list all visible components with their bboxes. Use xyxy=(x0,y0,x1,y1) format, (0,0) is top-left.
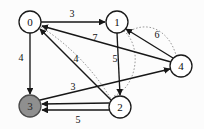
node-0-label: 0 xyxy=(27,16,33,28)
edge-weight-2-3-lower: 5 xyxy=(76,114,81,125)
node-3[interactable]: 3 xyxy=(19,95,41,117)
node-3-label: 3 xyxy=(27,100,33,112)
edge-4-to-0 xyxy=(42,26,171,62)
edge-weight-4-0: 7 xyxy=(93,32,98,43)
edge-1-to-2 xyxy=(117,33,120,95)
edge-2-to-3-upper xyxy=(42,103,109,104)
edge-weight-4-1: 6 xyxy=(155,29,160,40)
edge-weight-0-1: 3 xyxy=(70,8,75,19)
node-1[interactable]: 1 xyxy=(106,11,128,33)
edge-weight-2-0: 4 xyxy=(74,53,79,64)
edge-2-to-0 xyxy=(40,29,111,100)
node-0[interactable]: 0 xyxy=(19,11,41,33)
graph-svg: 3 7 6 5 4 4 3 5 0 1 4 2 3 xyxy=(0,0,204,129)
edge-weight-1-2: 5 xyxy=(113,53,118,64)
node-2[interactable]: 2 xyxy=(109,96,131,118)
graph-figure: 3 7 6 5 4 4 3 5 0 1 4 2 3 xyxy=(0,0,204,129)
node-1-label: 1 xyxy=(114,16,120,28)
node-4-label: 4 xyxy=(178,60,184,72)
dotted-path-1-to-4 xyxy=(127,27,176,55)
node-2-label: 2 xyxy=(117,101,123,113)
edge-4-to-1 xyxy=(126,29,173,58)
edge-weight-2-3-upper: 3 xyxy=(71,81,76,92)
node-4[interactable]: 4 xyxy=(170,55,192,77)
edge-weight-0-3: 4 xyxy=(19,52,24,63)
edge-3-to-4 xyxy=(36,69,170,101)
